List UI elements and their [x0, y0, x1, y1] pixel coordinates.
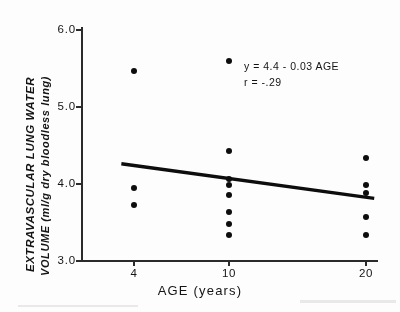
y-axis-title: EXTRAVASCULAR LUNG WATER VOLUME (ml/g dr…	[0, 0, 50, 290]
x-tick-label: 4	[131, 267, 138, 279]
y-axis-title-line-1: EXTRAVASCULAR LUNG WATER	[24, 77, 36, 272]
data-point	[226, 182, 232, 188]
data-point	[226, 232, 232, 238]
y-tick-label: 4.0	[58, 177, 76, 189]
annotation-equation: y = 4.4 - 0.03 AGE	[244, 58, 339, 74]
annotation-correlation: r = -.29	[244, 74, 339, 90]
data-point	[226, 192, 232, 198]
x-axis-title: AGE (years)	[0, 283, 400, 298]
data-point	[363, 232, 369, 238]
data-point	[226, 148, 232, 154]
y-tick-label: 5.0	[58, 100, 76, 112]
y-tick-label: 3.0	[58, 254, 76, 266]
y-axis-title-line-2: VOLUME (ml/g dry bloodless lung)	[39, 76, 51, 276]
data-point	[363, 190, 369, 196]
x-tick-label: 10	[222, 267, 236, 279]
regression-annotation: y = 4.4 - 0.03 AGE r = -.29	[244, 58, 339, 90]
x-tick-label: 20	[359, 267, 373, 279]
figure-panel: EXTRAVASCULAR LUNG WATER VOLUME (ml/g dr…	[0, 0, 400, 312]
scan-artifact	[300, 300, 396, 303]
y-tick-label: 6.0	[58, 23, 76, 35]
data-point	[363, 214, 369, 220]
data-point	[226, 221, 232, 227]
scan-artifact	[18, 305, 138, 307]
